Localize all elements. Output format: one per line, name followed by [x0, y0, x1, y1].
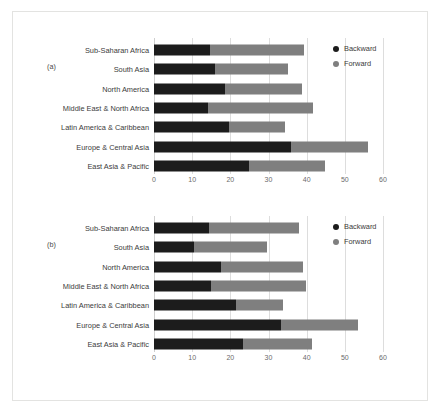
bar-segment-forward [225, 83, 301, 94]
category-label: Middle East & North Africa [11, 103, 149, 112]
bar-segment-forward [236, 300, 283, 311]
bar-row[interactable] [154, 223, 299, 234]
bar-row[interactable] [154, 141, 368, 152]
bar-segment-backward [154, 141, 291, 152]
legend-item-forward[interactable]: Forward [333, 237, 423, 246]
bar-segment-forward [210, 45, 304, 56]
bar-segment-forward [281, 319, 358, 330]
bar-row[interactable] [154, 122, 285, 133]
bar-segment-backward [154, 300, 236, 311]
bar-segment-forward [215, 64, 288, 75]
bar-segment-backward [154, 83, 225, 94]
category-label: North America [11, 262, 149, 271]
category-label: Sub-Saharan Africa [11, 46, 149, 55]
category-label: South Asia [11, 243, 149, 252]
bar-segment-forward [194, 242, 267, 253]
panel-a-legend: BackwardForward [333, 44, 423, 74]
bar-row[interactable] [154, 242, 267, 253]
bar-row[interactable] [154, 280, 306, 291]
category-label: Sub-Saharan Africa [11, 224, 149, 233]
panel-b-x-axis: 0102030405060 [154, 354, 383, 368]
legend-label: Backward [344, 222, 376, 231]
bar-row[interactable] [154, 338, 312, 349]
x-tick-label: 10 [188, 176, 196, 183]
bar-row[interactable] [154, 261, 303, 272]
category-label: Middle East & North Africa [11, 281, 149, 290]
legend-item-forward[interactable]: Forward [333, 59, 423, 68]
chart-panel-b: (b) Sub-Saharan AfricaSouth AsiaNorth Am… [13, 212, 429, 384]
panel-a-x-axis: 0102030405060 [154, 176, 383, 190]
category-label: Latin America & Caribbean [11, 123, 149, 132]
legend-dot-forward-icon [333, 239, 339, 245]
bar-segment-backward [154, 122, 229, 133]
bar-segment-backward [154, 242, 194, 253]
x-tick-label: 60 [379, 176, 387, 183]
x-tick-label: 0 [152, 354, 156, 361]
category-label: East Asia & Pacific [11, 339, 149, 348]
category-label: South Asia [11, 65, 149, 74]
bar-segment-forward [249, 160, 325, 171]
bar-segment-forward [208, 102, 313, 113]
panel-a-category-labels: Sub-Saharan AfricaSouth AsiaNorth Americ… [13, 34, 153, 178]
gridline-40 [307, 216, 308, 352]
legend-label: Forward [344, 59, 371, 68]
category-label: Latin America & Caribbean [11, 301, 149, 310]
x-tick-label: 20 [226, 176, 234, 183]
x-tick-label: 30 [265, 176, 273, 183]
panel-b-category-labels: Sub-Saharan AfricaSouth AsiaNorth Americ… [13, 212, 153, 356]
bar-segment-backward [154, 45, 210, 56]
bar-segment-forward [243, 338, 312, 349]
legend-item-backward[interactable]: Backward [333, 222, 423, 231]
x-tick-label: 20 [226, 354, 234, 361]
bar-segment-forward [221, 261, 303, 272]
x-tick-label: 10 [188, 354, 196, 361]
bar-segment-forward [291, 141, 368, 152]
bar-row[interactable] [154, 45, 304, 56]
x-tick-label: 30 [265, 354, 273, 361]
figure-card: (a) Sub-Saharan AfricaSouth AsiaNorth Am… [12, 11, 428, 401]
legend-item-backward[interactable]: Backward [333, 44, 423, 53]
bar-row[interactable] [154, 102, 313, 113]
x-tick-label: 40 [303, 354, 311, 361]
x-tick-label: 0 [152, 176, 156, 183]
bar-segment-backward [154, 160, 249, 171]
legend-dot-backward-icon [333, 46, 339, 52]
bar-segment-forward [211, 280, 306, 291]
legend-label: Forward [344, 237, 371, 246]
bar-segment-backward [154, 102, 208, 113]
bar-segment-backward [154, 64, 215, 75]
x-tick-label: 60 [379, 354, 387, 361]
bar-segment-backward [154, 223, 209, 234]
x-tick-label: 40 [303, 176, 311, 183]
category-label: Europe & Central Asia [11, 320, 149, 329]
category-label: East Asia & Pacific [11, 161, 149, 170]
bar-row[interactable] [154, 319, 358, 330]
bar-segment-forward [229, 122, 285, 133]
legend-dot-forward-icon [333, 61, 339, 67]
panel-b-legend: BackwardForward [333, 222, 423, 252]
bar-segment-backward [154, 280, 211, 291]
bar-segment-backward [154, 261, 221, 272]
x-tick-label: 50 [341, 176, 349, 183]
category-label: Europe & Central Asia [11, 142, 149, 151]
bar-segment-backward [154, 338, 243, 349]
bar-segment-backward [154, 319, 281, 330]
legend-dot-backward-icon [333, 224, 339, 230]
category-label: North America [11, 84, 149, 93]
legend-label: Backward [344, 44, 376, 53]
bar-row[interactable] [154, 300, 283, 311]
bar-row[interactable] [154, 64, 288, 75]
bar-segment-forward [209, 223, 299, 234]
x-tick-label: 50 [341, 354, 349, 361]
bar-row[interactable] [154, 83, 302, 94]
chart-panel-a: (a) Sub-Saharan AfricaSouth AsiaNorth Am… [13, 34, 429, 206]
bar-row[interactable] [154, 160, 325, 171]
